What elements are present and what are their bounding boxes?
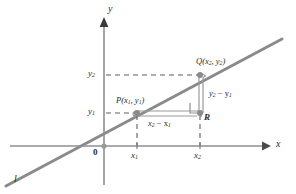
x1-tick-label-sub: 1	[135, 154, 138, 160]
y1-tick-label-sub: 1	[92, 110, 95, 116]
point-Q-label-end: )	[222, 56, 225, 66]
point-Q-label-mid: , y	[212, 56, 220, 66]
point-Q-label-main: Q(x	[196, 56, 209, 66]
run-label-minus: − x	[155, 118, 168, 128]
y-axis-arrowhead	[100, 17, 109, 27]
point-P-label-end: )	[141, 95, 144, 105]
rise-label: y2 − y1	[209, 89, 232, 99]
x1-tick-label: x1	[131, 151, 138, 161]
y2-tick-label-sub: 2	[92, 72, 95, 78]
x-axis-label: x	[276, 139, 280, 149]
point-R-dot	[197, 110, 203, 116]
run-label-sub2: 1	[168, 122, 171, 128]
origin-label: 0	[93, 148, 98, 157]
x2-tick-label: x2	[194, 151, 201, 161]
point-Q-dot	[197, 72, 203, 78]
origin-dot	[101, 143, 106, 148]
point-R-label: R	[204, 113, 210, 122]
point-P-label-main: P(x	[116, 95, 128, 105]
point-Q-label: Q(x2, y2)	[196, 57, 225, 67]
line-l	[6, 39, 282, 186]
rise-label-sub2: 1	[229, 92, 232, 98]
y1-tick-label: y1	[88, 107, 95, 117]
run-label: x2 − x1	[148, 119, 171, 129]
point-P-dot	[134, 110, 140, 116]
y-axis-label: y	[108, 4, 112, 14]
x-axis-arrowhead	[262, 142, 271, 151]
rise-label-minus: − y	[216, 88, 229, 98]
point-P-label: P(x1, y1)	[116, 96, 144, 106]
slope-diagram-figure: y x 0 x1 x2 y1 y2 P(x1, y1) Q(x2, y2) R …	[0, 0, 296, 194]
diagram-canvas	[0, 0, 296, 194]
x2-tick-label-sub: 2	[198, 154, 201, 160]
y2-tick-label: y2	[88, 69, 95, 79]
line-l-label: l	[14, 174, 17, 184]
point-P-label-mid: , y	[131, 95, 139, 105]
